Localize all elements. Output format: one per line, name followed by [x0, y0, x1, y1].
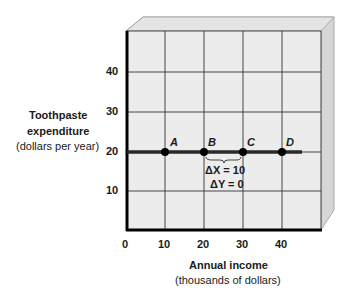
x-axis-subtitle: (thousands of dollars) — [175, 274, 281, 286]
x-tick-20: 20 — [197, 238, 209, 250]
x-tick-40: 40 — [275, 238, 287, 250]
plot-area — [126, 31, 321, 230]
x-axis-title: Annual income — [189, 259, 268, 271]
point-c — [239, 148, 247, 156]
delta-x-annotation: ΔX = 10 — [205, 164, 245, 176]
y-axis-subtitle: (dollars per year) — [16, 140, 99, 152]
y-tick-10: 10 — [106, 184, 118, 196]
y-tick-20: 20 — [106, 145, 118, 157]
y-axis-title-line2: expenditure — [27, 125, 89, 137]
point-a — [161, 148, 169, 156]
delta-y-annotation: ΔY = 0 — [210, 178, 244, 190]
point-label-d: D — [286, 136, 294, 148]
y-tick-40: 40 — [106, 65, 118, 77]
box-top-panel — [126, 17, 334, 31]
point-label-a: A — [170, 136, 178, 148]
point-d — [278, 148, 286, 156]
y-tick-30: 30 — [106, 105, 118, 117]
point-label-b: B — [208, 136, 216, 148]
y-axis-title: Toothpaste — [29, 109, 87, 121]
x-tick-30: 30 — [236, 238, 248, 250]
point-b — [200, 148, 208, 156]
point-label-c: C — [247, 136, 255, 148]
x-tick-0: 0 — [122, 238, 128, 250]
x-tick-10: 10 — [158, 238, 170, 250]
